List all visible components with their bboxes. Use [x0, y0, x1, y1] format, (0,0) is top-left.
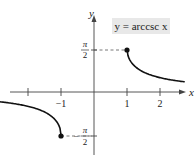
x-axis-arrow-icon [179, 90, 186, 95]
plot-area: y = arccsc x x y −1 1 2 π 2 − π [0, 0, 196, 161]
equation-label: y = arccsc x [115, 20, 168, 32]
svg-text:2: 2 [83, 137, 88, 147]
curve-negative-branch [0, 102, 61, 135]
chart: y = arccsc x x y −1 1 2 π 2 − π [0, 0, 196, 161]
endpoint-lower [58, 133, 63, 138]
tick-label-1: 1 [125, 98, 130, 109]
tick-label-2: 2 [158, 98, 163, 109]
svg-text:π: π [83, 39, 88, 49]
x-axis-label: x [188, 86, 194, 98]
endpoint-upper [124, 47, 129, 52]
svg-text:2: 2 [83, 50, 88, 60]
svg-text:π: π [83, 125, 88, 135]
tick-label-pi-over-2: π 2 [81, 39, 89, 60]
tick-label-neg-pi-over-2: − π 2 [73, 125, 89, 147]
y-axis-label: y [88, 7, 94, 19]
curve-positive-branch [127, 49, 185, 82]
tick-label-neg1: −1 [56, 98, 67, 109]
